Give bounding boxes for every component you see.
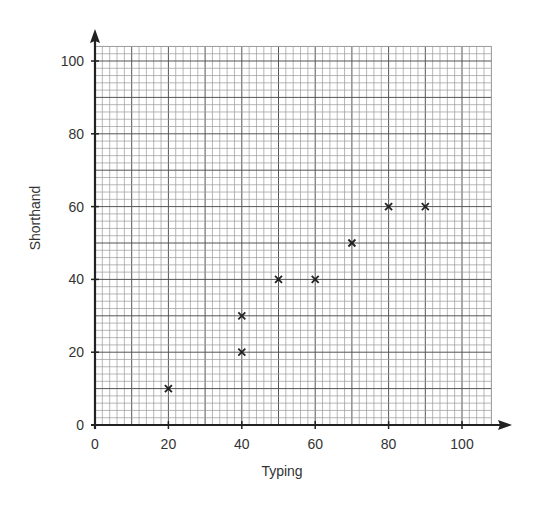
x-axis-label: Typing (261, 463, 302, 479)
x-axis-arrow-icon (498, 420, 512, 430)
x-tick-label: 0 (91, 436, 99, 452)
x-tick-label: 80 (381, 436, 397, 452)
y-axis-ticks: 020406080100 (61, 53, 99, 433)
y-tick-label: 0 (76, 417, 84, 433)
y-axis-arrow-icon (90, 29, 100, 43)
data-points (165, 203, 429, 392)
y-tick-label: 40 (68, 271, 84, 287)
y-tick-label: 100 (61, 53, 85, 69)
y-tick-label: 80 (68, 126, 84, 142)
x-tick-label: 20 (161, 436, 177, 452)
y-tick-label: 20 (68, 344, 84, 360)
grid (95, 46, 491, 425)
x-tick-label: 40 (234, 436, 250, 452)
scatter-chart: 020406080100 020406080100 Typing Shortha… (0, 0, 537, 511)
y-tick-label: 60 (68, 199, 84, 215)
y-axis-label: Shorthand (27, 186, 43, 251)
axes (90, 29, 512, 430)
x-tick-label: 100 (450, 436, 474, 452)
x-tick-label: 60 (307, 436, 323, 452)
